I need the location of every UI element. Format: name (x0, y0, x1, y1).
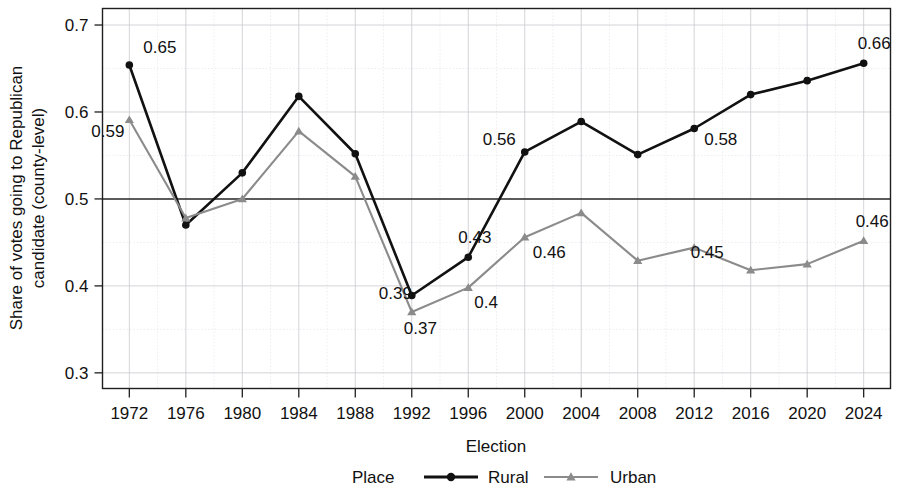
y-tick-label: 0.4 (65, 277, 89, 296)
y-axis-title-line1: Share of votes going to Republican (7, 66, 26, 331)
x-tick-label: 2016 (732, 404, 770, 423)
data-label-rural-2000: 0.56 (483, 130, 516, 149)
x-tick-label: 1984 (280, 404, 318, 423)
x-tick-label: 1992 (393, 404, 431, 423)
y-tick-label: 0.6 (65, 103, 89, 122)
data-label-rural-2012: 0.58 (704, 130, 737, 149)
x-tick-label: 2020 (788, 404, 826, 423)
x-tick-label: 1976 (167, 404, 205, 423)
data-label-urban-2016: 0.45 (691, 243, 724, 262)
data-label-rural-1996: 0.43 (458, 228, 491, 247)
data-label-urban-2000: 0.46 (533, 243, 566, 262)
data-point-rural (126, 61, 134, 69)
data-point-rural (747, 91, 755, 99)
data-point-rural (634, 151, 642, 159)
x-tick-label: 2008 (619, 404, 657, 423)
data-point-rural (577, 118, 585, 126)
data-point-rural (690, 125, 698, 133)
x-axis-title: Election (466, 437, 526, 456)
x-tick-label: 2000 (506, 404, 544, 423)
data-label-urban-1972: 0.59 (91, 122, 124, 141)
data-point-rural (182, 221, 190, 229)
data-point-rural (860, 59, 868, 67)
legend-key-rural-marker (447, 473, 455, 481)
x-tick-label: 1988 (336, 404, 374, 423)
x-tick-label: 2012 (675, 404, 713, 423)
data-label-urban-2024: 0.46 (856, 212, 889, 231)
x-tick-label: 1972 (110, 404, 148, 423)
data-point-rural (803, 77, 811, 85)
x-tick-label: 2024 (845, 404, 883, 423)
x-tick-label: 1980 (223, 404, 261, 423)
data-label-urban-1996: 0.4 (474, 293, 498, 312)
election-share-line-chart: 0.30.40.50.60.7 197219761980198419881992… (0, 0, 918, 492)
data-point-rural (239, 169, 247, 177)
y-tick-label: 0.3 (65, 364, 89, 383)
data-label-rural-2024: 0.66 (858, 34, 891, 53)
data-label-rural-1972: 0.65 (143, 38, 176, 57)
y-tick-label: 0.7 (65, 16, 89, 35)
data-point-rural (295, 93, 303, 101)
legend-title: Place (352, 468, 395, 487)
data-point-rural (464, 253, 472, 261)
data-label-urban-1992: 0.37 (404, 319, 437, 338)
data-label-rural-1992: 0.39 (379, 284, 412, 303)
data-point-rural (351, 150, 359, 158)
y-tick-label: 0.5 (65, 190, 89, 209)
y-axis-title-line2: candidate (county-level) (29, 108, 48, 288)
x-tick-label: 1996 (449, 404, 487, 423)
legend-label-rural[interactable]: Rural (488, 468, 529, 487)
x-tick-label: 2004 (562, 404, 600, 423)
data-point-rural (521, 148, 529, 156)
legend-label-urban[interactable]: Urban (610, 468, 656, 487)
